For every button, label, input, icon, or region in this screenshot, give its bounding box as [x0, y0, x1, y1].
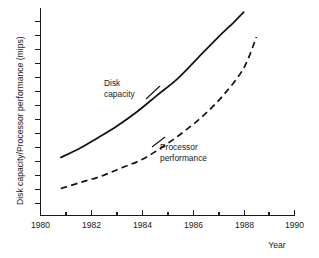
annotation-processor-performance-line2: performance [160, 153, 207, 163]
x-tick-label-1990: 1990 [285, 220, 304, 230]
x-tick-label-1980: 1980 [31, 220, 50, 230]
chart-container: Disk capacity/Processor performance (mip… [0, 0, 319, 258]
x-tick-label-1982: 1982 [82, 220, 101, 230]
x-tick-label-1984: 1984 [133, 220, 152, 230]
annotation-processor-performance-line1: Processor [160, 142, 198, 152]
annotation-disk-capacity-line1: Disk [104, 78, 121, 88]
x-tick-label-1986: 1986 [184, 220, 203, 230]
y-axis-title: Disk capacity/Processor performance (mip… [15, 36, 25, 205]
chart-svg: Disk capacity/Processor performance (mip… [0, 0, 319, 258]
x-tick-label-1988: 1988 [235, 220, 254, 230]
annotation-disk-capacity-line2: capacity [104, 89, 136, 99]
x-axis-title: Year [268, 240, 286, 250]
